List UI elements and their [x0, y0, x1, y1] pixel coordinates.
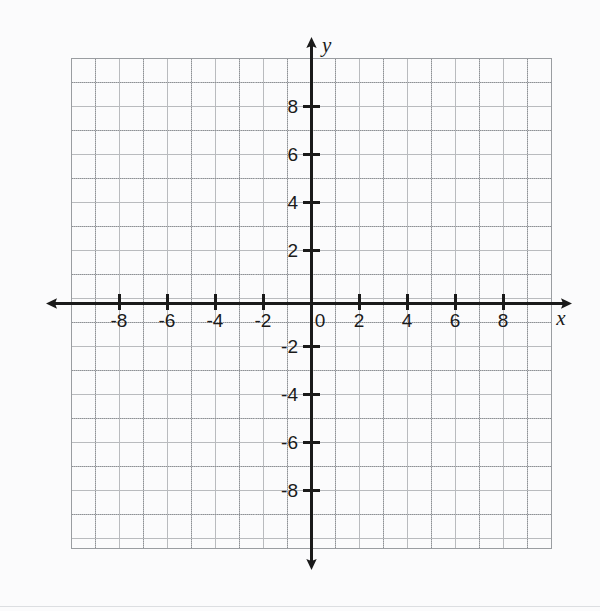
- y-tick-label-neg4: -4: [281, 384, 298, 405]
- y-axis-name-label: y: [320, 33, 332, 57]
- y-tick-label-2: 2: [287, 240, 298, 261]
- x-tick-label-neg8: -8: [111, 310, 128, 331]
- x-tick-label-zero: 0: [315, 310, 326, 331]
- x-tick-label-8: 8: [498, 310, 509, 331]
- y-tick-label-6: 6: [287, 144, 298, 165]
- x-axis: [46, 298, 572, 308]
- coordinate-plane-svg: -8 -6 -4 -2 0 2 4 6 8 8 6 4 2 -2 -4 -6 -…: [0, 0, 600, 611]
- coordinate-grid-figure: -8 -6 -4 -2 0 2 4 6 8 8 6 4 2 -2 -4 -6 -…: [0, 0, 600, 611]
- x-tick-label-neg2: -2: [255, 310, 272, 331]
- y-tick-label-neg8: -8: [281, 480, 298, 501]
- y-tick-label-4: 4: [287, 192, 298, 213]
- x-axis-tick-labels: -8 -6 -4 -2 0 2 4 6 8: [111, 310, 509, 331]
- x-tick-label-4: 4: [402, 310, 413, 331]
- x-tick-label-neg6: -6: [159, 310, 176, 331]
- y-tick-label-neg2: -2: [281, 336, 298, 357]
- page-bottom-rule: [0, 606, 600, 607]
- x-axis-name-label: x: [555, 306, 566, 330]
- x-tick-label-6: 6: [450, 310, 461, 331]
- y-tick-label-neg6: -6: [281, 432, 298, 453]
- x-tick-label-neg4: -4: [207, 310, 224, 331]
- y-tick-label-8: 8: [287, 96, 298, 117]
- x-tick-label-2: 2: [354, 310, 365, 331]
